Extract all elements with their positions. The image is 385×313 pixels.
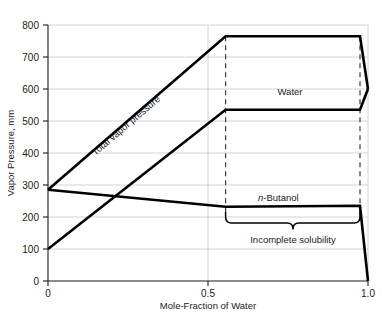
series-label-n-butanol: n-Butanol	[258, 192, 299, 203]
series-label-n-butanol-rest: -Butanol	[263, 192, 298, 203]
vapor-pressure-chart: 800 700 600 500 400 300 200 100 0 0 0.5 …	[0, 0, 385, 313]
y-tick-label: 700	[22, 52, 39, 63]
y-tick-label: 600	[22, 84, 39, 95]
y-tick-label: 300	[22, 180, 39, 191]
x-tick-label: 0	[45, 288, 51, 299]
y-tick-labels: 800 700 600 500 400 300 200 100 0	[22, 20, 39, 287]
x-tick-label: 1.0	[361, 288, 375, 299]
x-tick-label: 0.5	[201, 288, 215, 299]
series-label-water: Water	[278, 86, 303, 97]
y-tick-label: 500	[22, 116, 39, 127]
y-tick-label: 100	[22, 244, 39, 255]
incomplete-solubility-label: Incomplete solubility	[250, 234, 336, 245]
y-tick-label: 200	[22, 212, 39, 223]
y-tick-label: 400	[22, 148, 39, 159]
chart-background	[0, 0, 385, 313]
y-tick-label: 800	[22, 20, 39, 31]
y-axis-title: Vapor Pressure, mm	[5, 110, 16, 196]
x-axis-title: Mole-Fraction of Water	[160, 300, 256, 311]
y-tick-label: 0	[33, 276, 39, 287]
